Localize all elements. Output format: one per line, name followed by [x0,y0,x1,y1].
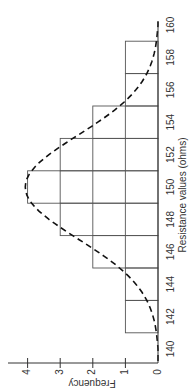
resistance-tick-label: 154 [165,113,176,130]
histogram-bar [125,74,158,106]
resistance-tick-label: 156 [165,81,176,98]
resistance-tick-label: 148 [165,211,176,228]
resistance-tick-label: 146 [165,243,176,260]
resistance-tick-label: 152 [165,146,176,163]
x-axis-title: Resistance values (ohms) [177,137,188,252]
histogram-bar [60,138,158,170]
resistance-tick-label: 160 [165,16,176,33]
histogram-bar [60,203,158,235]
frequency-tick-label: 0 [152,369,163,375]
resistance-tick-label: 158 [165,49,176,66]
frequency-tick-label: 4 [21,369,32,375]
resistance-tick-labels: 140142144146148150152154156158160 [165,16,176,357]
resistance-tick-label: 144 [165,275,176,292]
frequency-tick-label: 1 [119,369,130,375]
resistance-tick-label: 142 [165,308,176,325]
y-axis-title: Frequency [68,378,115,388]
frequency-tick-label: 2 [86,369,97,375]
resistance-tick-label: 140 [165,340,176,357]
resistance-tick-label: 150 [165,178,176,195]
normal-curve [25,21,158,361]
frequency-tick-label: 3 [54,369,65,375]
histogram-chart: 140142144146148150152154156158160 01234 … [0,0,193,388]
histogram-bar [125,268,158,300]
frequency-tick-labels: 01234 [21,358,162,375]
histogram-bar [125,41,158,73]
